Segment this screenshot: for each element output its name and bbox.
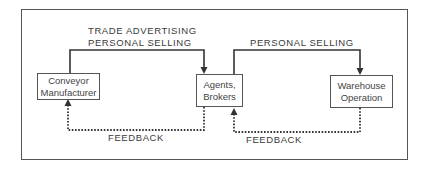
node-label-line: Brokers (203, 91, 236, 103)
label-line: FEEDBACK (108, 132, 164, 144)
edge-label-personal-selling: PERSONAL SELLING (250, 37, 348, 49)
arrowhead-up-icon (65, 99, 72, 106)
node-label-line: Warehouse (337, 80, 385, 92)
node-warehouse-operation: Warehouse Operation (330, 75, 393, 108)
node-conveyor-manufacturer: Conveyor Manufacturer (37, 73, 100, 100)
node-agents-brokers: Agents, Brokers (196, 74, 243, 107)
node-label-line: Conveyor (41, 75, 97, 87)
edge-feedback-agents-to-conveyor (65, 99, 205, 130)
edge-conveyor-to-agents (70, 50, 208, 74)
node-label-line: Agents, (203, 79, 236, 91)
arrowhead-down-icon (357, 68, 364, 75)
edge-label-feedback-1: FEEDBACK (108, 132, 164, 144)
label-line: PERSONAL SELLING (250, 37, 348, 49)
node-label-line: Manufacturer (41, 87, 97, 99)
arrowhead-down-icon (201, 67, 208, 74)
edge-label-trade-advertising: TRADE ADVERTISING PERSONAL SELLING (88, 25, 188, 49)
label-line: TRADE ADVERTISING (88, 25, 188, 37)
edge-agents-to-warehouse (234, 50, 364, 75)
label-line: PERSONAL SELLING (88, 37, 188, 49)
node-label-line: Operation (337, 92, 385, 104)
arrowhead-up-icon (231, 108, 238, 115)
edge-feedback-warehouse-to-agents (231, 108, 361, 132)
edge-label-feedback-2: FEEDBACK (246, 134, 302, 146)
label-line: FEEDBACK (246, 134, 302, 146)
